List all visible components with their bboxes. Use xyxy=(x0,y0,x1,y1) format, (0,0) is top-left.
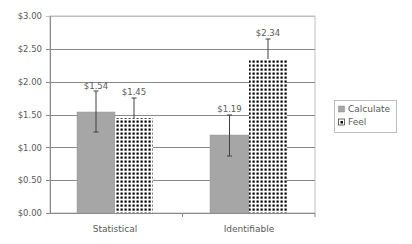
data-label-statistical-feel: $1.45 xyxy=(122,87,146,97)
category-label-identifiable: Identifiable xyxy=(224,224,275,234)
y-tick-labels: $0.00 $0.50 $1.00 $1.50 $2.00 $2.50 $3.0… xyxy=(18,11,42,218)
y-tick-label: $2.50 xyxy=(18,44,42,54)
bar-chart: $0.00 $0.50 $1.00 $1.50 $2.00 $2.50 $3.0… xyxy=(0,0,412,244)
bar-identifiable-feel xyxy=(249,59,287,213)
y-tick-label: $1.50 xyxy=(18,110,42,120)
y-tick-label: $0.50 xyxy=(18,175,42,185)
data-label-statistical-calculate: $1.54 xyxy=(84,81,108,91)
bar-group-statistical xyxy=(77,112,153,213)
legend-label-calculate: Calculate xyxy=(348,104,390,114)
y-tick-label: $2.00 xyxy=(18,77,42,87)
legend-swatch-feel-dot xyxy=(341,121,344,124)
data-label-identifiable-calculate: $1.19 xyxy=(217,104,241,114)
legend-swatch-calculate xyxy=(339,106,345,112)
data-label-identifiable-feel: $2.34 xyxy=(256,28,280,38)
bar-statistical-feel xyxy=(115,118,153,213)
y-tick-label: $3.00 xyxy=(18,11,42,21)
category-label-statistical: Statistical xyxy=(93,224,137,234)
legend-label-feel: Feel xyxy=(348,117,366,127)
y-tick-label: $1.00 xyxy=(18,143,42,153)
y-tick-label: $0.00 xyxy=(18,208,42,218)
legend: Calculate Feel xyxy=(335,101,397,133)
